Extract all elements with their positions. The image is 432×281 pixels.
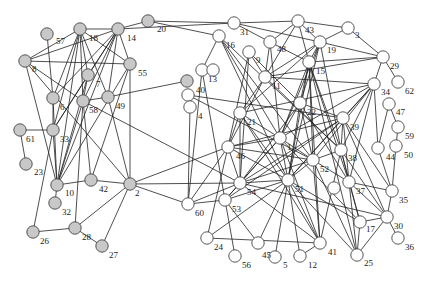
node-23	[20, 158, 32, 170]
node-label: 6	[60, 102, 65, 112]
node-label: 5	[283, 260, 288, 270]
node-label: 51	[295, 184, 304, 194]
node-41	[314, 237, 326, 249]
edge-11-34	[265, 77, 374, 84]
node-label: 11	[272, 81, 281, 91]
edge-29-15	[309, 57, 383, 62]
edge-31-43	[234, 21, 298, 23]
node-20	[142, 15, 154, 27]
node-label: 28	[82, 232, 92, 242]
node-label: 7	[96, 79, 101, 89]
node-52	[307, 154, 319, 166]
node-label: 45	[262, 250, 272, 260]
node-39	[337, 112, 349, 124]
node-6	[47, 92, 59, 104]
node-label: 27	[109, 250, 119, 260]
node-label: 1	[287, 142, 292, 152]
node-34	[368, 78, 380, 90]
node-21	[234, 107, 246, 119]
node-label: 23	[34, 167, 44, 177]
node-label: 34	[381, 87, 391, 97]
node-label: 33	[60, 134, 70, 144]
node-9	[243, 46, 255, 58]
node-label: 44	[386, 152, 396, 162]
node-28	[69, 222, 81, 234]
node-56	[229, 250, 241, 262]
node-label: 18	[89, 33, 99, 43]
node-label: 46	[236, 151, 246, 161]
edge-14-31	[118, 23, 234, 29]
node-1	[274, 132, 286, 144]
edge-39-30	[343, 118, 387, 217]
node-42	[85, 174, 97, 186]
network-graph: 5718142085576584961332310422322628273143…	[0, 0, 432, 281]
node-8	[19, 55, 31, 67]
node-4	[184, 101, 196, 113]
node-label: 58	[89, 105, 99, 115]
node-label: 32	[62, 207, 71, 217]
node-label: 16	[226, 40, 236, 50]
node-label: 38	[348, 153, 358, 163]
node-3	[342, 22, 354, 34]
edge-37-30	[349, 182, 387, 217]
node-15	[303, 56, 315, 68]
node-49	[102, 91, 114, 103]
node-29	[377, 51, 389, 63]
edge-8-55	[25, 61, 130, 64]
edge-49-19b	[108, 81, 187, 97]
node-24	[201, 232, 213, 244]
node-label: 53	[232, 204, 242, 214]
node-label: 59	[405, 131, 415, 141]
node-label: 20	[157, 24, 167, 34]
node-10	[51, 179, 63, 191]
node-30	[381, 211, 393, 223]
node-12	[294, 250, 306, 262]
node-19	[314, 36, 326, 48]
node-37	[343, 176, 355, 188]
node-label: 21	[247, 117, 256, 127]
node-label: 19	[327, 45, 337, 55]
node-label: 31	[240, 27, 249, 37]
node-16	[213, 30, 225, 42]
edge-58-54	[83, 101, 240, 183]
node-label: 52	[320, 164, 329, 174]
edge-47-44	[378, 104, 389, 148]
node-label: 55	[138, 68, 148, 78]
node-13	[196, 64, 208, 76]
node-26	[27, 226, 39, 238]
node-27	[96, 240, 108, 252]
edge-2-54	[130, 183, 240, 184]
edge-7-10	[57, 75, 88, 185]
node-label: 50	[404, 150, 414, 160]
node-label: 24	[214, 242, 224, 252]
node-40	[182, 89, 194, 101]
edge-28-58	[75, 101, 83, 228]
node-44	[372, 142, 384, 154]
node-25	[351, 249, 363, 261]
node-label: 29	[390, 61, 400, 71]
node-label: 13	[208, 74, 218, 84]
node-54	[234, 177, 246, 189]
node-label: 14	[127, 33, 137, 43]
node-label: 47	[396, 107, 406, 117]
node-19b	[181, 75, 193, 87]
node-label: 12	[308, 260, 317, 270]
node-label: 61	[26, 134, 35, 144]
node-label: 8	[32, 64, 37, 74]
edge-1-46	[228, 138, 280, 147]
edge-13-53	[202, 70, 225, 200]
node-35	[386, 185, 398, 197]
node-33	[47, 124, 59, 136]
node-label: 37	[356, 186, 366, 196]
node-62	[392, 76, 404, 88]
node-label: 48	[277, 44, 287, 54]
node-17	[354, 216, 366, 228]
node-label: 60	[195, 208, 205, 218]
node-label: 35	[399, 195, 409, 205]
edge-26-33	[33, 130, 53, 232]
node-label: 57	[56, 36, 66, 46]
edge-51-45	[258, 180, 288, 243]
node-label: 17	[366, 224, 376, 234]
node-14	[112, 23, 124, 35]
node-45	[252, 237, 264, 249]
